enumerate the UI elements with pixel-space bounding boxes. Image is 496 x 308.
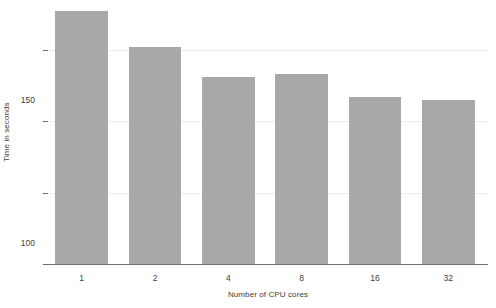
x-axis-title: Number of CPU cores	[48, 290, 488, 299]
x-tick-label: 32	[444, 273, 453, 283]
x-tick-label: 1	[79, 273, 84, 283]
bar	[349, 97, 401, 264]
bar-chart: Time in seconds 050100150 12481632 Numbe…	[0, 0, 496, 308]
x-tick-label: 4	[226, 273, 231, 283]
plot-area: 050100150 12481632	[48, 0, 488, 265]
x-axis-line	[48, 264, 488, 265]
bar	[129, 47, 181, 264]
y-tick-mark: 50	[43, 193, 48, 194]
y-axis-title: Time in seconds	[0, 0, 14, 264]
x-tick-label: 8	[299, 273, 304, 283]
y-tick-label: 100	[21, 238, 35, 248]
bar	[202, 77, 254, 264]
bar	[275, 74, 327, 264]
y-tick-mark: 150	[43, 50, 48, 51]
y-tick-mark: 100	[43, 121, 48, 122]
bar	[422, 100, 474, 264]
gridline	[48, 50, 488, 51]
x-tick-label: 2	[153, 273, 158, 283]
y-tick-label: 150	[21, 95, 35, 105]
x-tick-label: 16	[370, 273, 379, 283]
bar	[55, 11, 107, 264]
